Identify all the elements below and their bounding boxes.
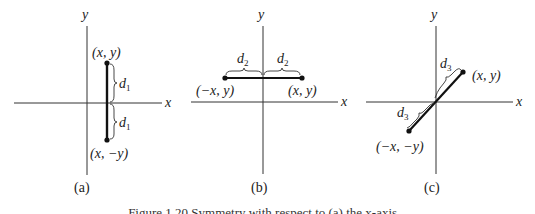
panel-a-point-bottom-label: (x, −y) (90, 146, 129, 162)
panel-a-d1-bottom: d1 (119, 115, 131, 132)
panel-c-d3-upper: d3 (440, 56, 452, 73)
figure-caption: Figure 1.20 Symmetry with respect to (a)… (0, 205, 535, 214)
panel-a-caption: (a) (74, 180, 90, 196)
panel-b-caption: (b) (251, 180, 267, 196)
panel-a-point-top-label: (x, y) (92, 45, 121, 61)
panel-c-point-lower-label: (−x, −y) (376, 139, 424, 155)
panel-a-d1-top: d1 (119, 76, 131, 93)
panel-a-point-bottom (104, 137, 109, 142)
panel-a-point-top (104, 60, 109, 65)
panel-a-y-label: y (80, 7, 89, 22)
panel-a-x-label: x (164, 95, 172, 110)
panel-b-brace-right (264, 68, 300, 75)
panel-b-d2-left: d2 (237, 51, 249, 68)
panel-b-point-right (299, 75, 304, 80)
panel-c-y-label: y (429, 7, 438, 22)
panel-b-point-right-label: (x, y) (288, 83, 317, 99)
panel-c-x-label: x (515, 94, 523, 109)
panel-c-point-upper-label: (x, y) (472, 68, 501, 84)
panel-a-brace-bottom (110, 104, 117, 139)
panel-b-d2-right: d2 (277, 51, 289, 68)
panel-b-y-label: y (256, 7, 265, 22)
panel-c: y x d3 d3 (x, y) (−x, −y) (366, 7, 523, 174)
panel-b-brace-left (226, 68, 262, 75)
panel-b-point-left (222, 75, 227, 80)
panel-c-brace-upper (435, 69, 461, 98)
panel-b: y x d2 d2 (−x, y) (x, y) (191, 7, 348, 174)
panel-b-x-label: x (340, 94, 348, 109)
panel-b-point-left-label: (−x, y) (196, 83, 235, 99)
panel-c-d3-lower: d3 (397, 105, 409, 122)
panel-a-brace-top (110, 64, 117, 102)
panel-c-caption: (c) (424, 180, 440, 196)
panel-c-point-upper (460, 69, 465, 74)
panel-a: y x d1 d1 (x, y) (x, −y) (14, 7, 172, 175)
panel-c-point-lower (406, 128, 411, 133)
